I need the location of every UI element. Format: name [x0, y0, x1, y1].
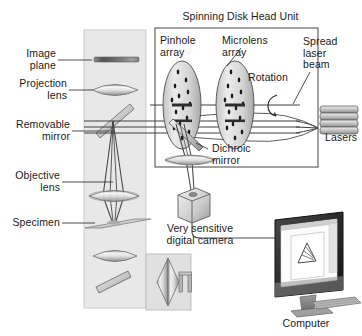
head-unit-title: Spinning Disk Head Unit	[173, 11, 308, 23]
spinning-disk-confocal-diagram: Spinning Disk Head Unit Image plane Proj…	[0, 0, 362, 336]
label-spread-laser-beam: Spread laser beam	[303, 36, 359, 71]
accessory-panel	[146, 254, 192, 310]
label-specimen: Specimen	[2, 217, 60, 229]
label-dichroic-mirror: Dichroic mirror	[212, 143, 268, 166]
label-lasers: Lasers	[325, 132, 362, 144]
camera-collection-lens	[165, 155, 215, 165]
label-image-plane: Image plane	[2, 48, 56, 71]
label-objective-lens: Objective lens	[2, 170, 60, 193]
label-computer: Computer	[275, 318, 337, 330]
label-digital-camera: Very sensitive digital camera	[152, 223, 248, 246]
pinhole-array-disk	[163, 61, 201, 149]
label-microlens-array: Microlens array	[222, 35, 284, 58]
lasers-element	[320, 106, 358, 134]
objective-lens-element	[89, 191, 139, 202]
label-projection-lens: Projection lens	[2, 78, 67, 101]
microscope-column-panel	[84, 30, 146, 308]
label-rotation: Rotation	[248, 72, 308, 84]
image-plane-element	[94, 57, 139, 62]
computer-element	[275, 212, 361, 317]
label-removable-mirror: Removable mirror	[0, 119, 70, 142]
label-pinhole-array: Pinhole array	[160, 35, 216, 58]
digital-camera-element	[178, 188, 210, 223]
